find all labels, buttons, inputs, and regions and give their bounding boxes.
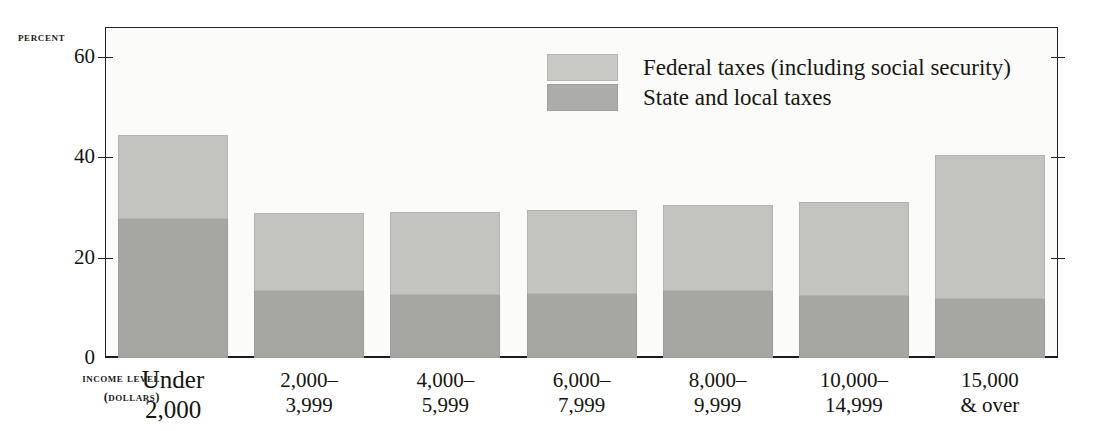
x-tick-label: 15,000& over [900, 368, 1080, 418]
bar-segment-state [663, 291, 773, 358]
y-tick-mark-left [98, 258, 113, 259]
bar-segment-federal [118, 135, 228, 219]
bar-group [527, 210, 637, 358]
y-tick-mark-right [1051, 57, 1065, 58]
y-tick-mark-left [98, 157, 113, 158]
y-tick-label: 60 [47, 46, 95, 67]
bar-group [254, 213, 364, 358]
bar-segment-state [390, 295, 500, 358]
bar-segment-federal [663, 205, 773, 291]
bar-segment-state [799, 296, 909, 358]
bar-segment-federal [254, 213, 364, 291]
legend-swatch-federal-icon [547, 54, 618, 81]
legend: Federal taxes (including social security… [547, 52, 1011, 112]
legend-label-state: State and local taxes [643, 86, 831, 109]
y-tick-label: 40 [47, 146, 95, 167]
bar-group [799, 202, 909, 358]
y-axis-title: PERCENT [18, 30, 65, 45]
bar-segment-federal [527, 210, 637, 294]
legend-swatch-state-icon [547, 84, 618, 111]
bar-segment-federal [390, 212, 500, 295]
legend-item-federal: Federal taxes (including social security… [547, 52, 1011, 82]
y-tick-label: 20 [47, 247, 95, 268]
bar-segment-federal [935, 155, 1045, 299]
bar-segment-state [527, 294, 637, 358]
x-tick-label-line1: 15,000 [900, 368, 1080, 393]
legend-item-state: State and local taxes [547, 82, 1011, 112]
bar-group [663, 205, 773, 358]
bar-segment-federal [799, 202, 909, 296]
bar-segment-state [118, 219, 228, 358]
bar-group [118, 135, 228, 358]
y-tick-mark-right [1051, 157, 1065, 158]
y-tick-mark-left [98, 57, 113, 58]
stacked-bar-chart: PERCENT 0204060 Federal taxes (including… [0, 0, 1097, 431]
bar-segment-state [935, 299, 1045, 358]
x-tick-label-line2: & over [900, 393, 1080, 418]
y-tick-mark-right [1051, 258, 1065, 259]
bar-group [390, 212, 500, 358]
bar-segment-state [254, 291, 364, 358]
bar-group [935, 155, 1045, 358]
legend-label-federal: Federal taxes (including social security… [643, 56, 1011, 79]
